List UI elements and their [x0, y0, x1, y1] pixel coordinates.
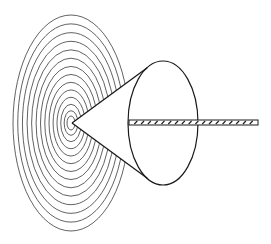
cone-wave-diagram — [0, 0, 271, 244]
diagram-canvas — [0, 0, 271, 244]
hatched-rod — [129, 120, 258, 125]
